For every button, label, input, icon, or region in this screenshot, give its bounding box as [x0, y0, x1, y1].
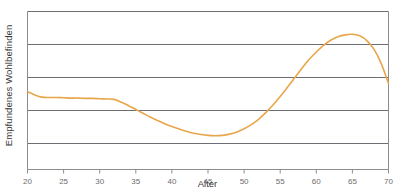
x-axis-label: Alter [27, 178, 388, 189]
wellbeing-series-line [28, 34, 389, 135]
wellbeing-age-chart: Empfundenes Wohlbefinden 202530354045505… [0, 0, 404, 196]
gridlines [28, 12, 389, 144]
plot-frame [28, 12, 389, 170]
chart-plot-area: 2025303540455055606570 [0, 0, 404, 196]
x-axis-ticks [28, 170, 389, 174]
